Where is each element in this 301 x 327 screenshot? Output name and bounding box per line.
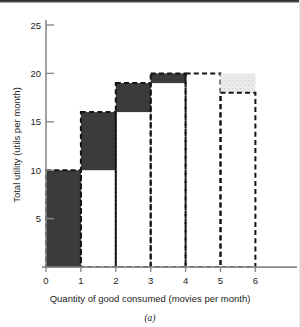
x-tick-label-5: 5 (218, 275, 223, 286)
scan-edge-right (299, 0, 301, 327)
x-tick-label-2: 2 (113, 275, 118, 286)
y-tick-label-20: 20 (30, 68, 41, 79)
figure-container: 25 20 15 10 5 0 1 2 3 4 5 6 Total utilit… (0, 0, 301, 327)
x-tick-label-1: 1 (78, 275, 83, 286)
x-axis-title: Quantity of good consumed (movies per mo… (50, 293, 251, 304)
x-tick-label-4: 4 (183, 275, 188, 286)
scan-edge-top (0, 0, 301, 3)
x-tick-label-3: 3 (148, 275, 153, 286)
x-tick-label-0: 0 (43, 275, 48, 286)
bar-4-marginal-fill (151, 73, 186, 83)
y-tick-label-15: 15 (30, 116, 41, 127)
bar-2-marginal-fill (81, 112, 116, 170)
x-tick-label-6: 6 (253, 275, 258, 286)
y-tick-label-5: 5 (36, 213, 41, 224)
y-tick-label-25: 25 (30, 20, 41, 31)
bar-chart: 25 20 15 10 5 0 1 2 3 4 5 6 Total utilit… (0, 0, 301, 327)
figure-caption: (a) (144, 313, 155, 324)
bar-3-marginal-fill (116, 83, 151, 112)
y-tick-label-10: 10 (30, 165, 41, 176)
y-axis-title: Total utility (utils per month) (11, 87, 22, 203)
bar-6-negative-marginal-fill (221, 73, 256, 92)
